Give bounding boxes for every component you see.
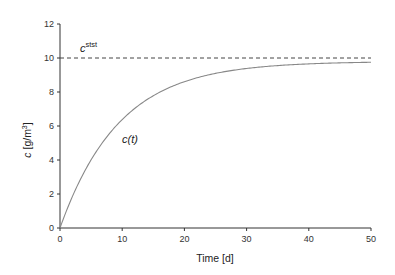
- concentration-curve: [60, 62, 371, 228]
- y-tick-label: 4: [49, 155, 54, 165]
- x-tick-label: 10: [117, 234, 127, 244]
- annotation-steady-state: cstst: [80, 40, 98, 54]
- y-tick-label: 2: [49, 189, 54, 199]
- plot-area: [60, 58, 371, 228]
- axes: 01020304050024681012: [44, 19, 376, 244]
- x-tick-label: 0: [57, 234, 62, 244]
- x-axis-label: Time [d]: [196, 252, 234, 264]
- y-tick-label: 0: [49, 223, 54, 233]
- y-axis-label: c [g/m3]: [21, 122, 33, 158]
- annotations: cstst c(t): [80, 40, 138, 145]
- x-tick-label: 30: [242, 234, 252, 244]
- x-tick-label: 40: [304, 234, 314, 244]
- y-tick-label: 6: [49, 121, 54, 131]
- y-tick-label: 12: [44, 19, 54, 29]
- chart: 01020304050024681012 Time [d] c [g/m3] c…: [0, 0, 395, 275]
- x-tick-label: 20: [179, 234, 189, 244]
- y-tick-label: 8: [49, 87, 54, 97]
- annotation-curve: c(t): [122, 133, 138, 145]
- y-tick-label: 10: [44, 53, 54, 63]
- x-tick-label: 50: [366, 234, 376, 244]
